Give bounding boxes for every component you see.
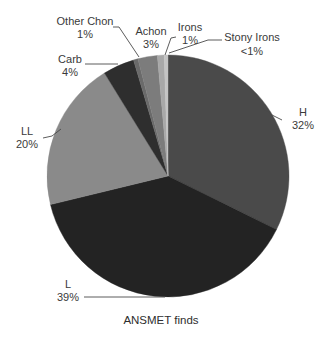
label-achon: Achon [135, 25, 166, 37]
pie-chart: H32%L39%LL20%Carb4%Other Chon1%Achon3%Ir… [0, 0, 333, 339]
pct-label-stony-irons: <1% [241, 45, 264, 57]
label-other-chon: Other Chon [57, 15, 114, 27]
pct-label-other-chon: 1% [77, 28, 93, 40]
pct-label-carb: 4% [62, 66, 78, 78]
label-stony-irons: Stony Irons [224, 31, 280, 43]
label-h: H [299, 106, 307, 118]
pct-label-ll: 20% [16, 138, 38, 150]
label-ll: LL [21, 125, 33, 137]
label-carb: Carb [58, 53, 82, 65]
pct-label-h: 32% [292, 119, 314, 131]
pct-label-achon: 3% [143, 38, 159, 50]
pie-slices [47, 55, 289, 297]
label-l: L [65, 278, 71, 290]
label-irons: Irons [178, 21, 203, 33]
pct-label-irons: 1% [182, 34, 198, 46]
pct-label-l: 39% [57, 291, 79, 303]
chart-caption: ANSMET finds [123, 314, 198, 326]
